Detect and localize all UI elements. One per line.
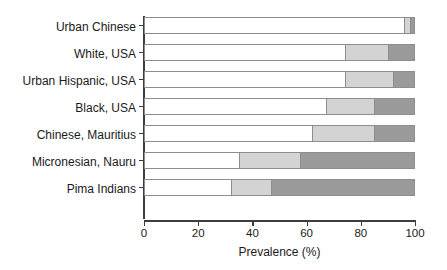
bar-segment: [410, 17, 415, 34]
bar-track: [144, 71, 415, 88]
y-axis-label-0: Urban Chinese: [0, 20, 136, 34]
x-tick-label: 20: [178, 227, 218, 240]
x-tick-label: 80: [341, 227, 381, 240]
bar-segment: [144, 179, 231, 196]
bar-row: [144, 98, 415, 115]
bar-segment: [144, 152, 239, 169]
x-axis-title: Prevalence (%): [144, 245, 415, 259]
bar-row: [144, 125, 415, 142]
bar-segment: [144, 17, 404, 34]
x-tick-label: 60: [287, 227, 327, 240]
bar-track: [144, 44, 415, 61]
bar-row: [144, 179, 415, 196]
x-tick: [198, 221, 199, 226]
bar-segment: [144, 44, 345, 61]
bar-track: [144, 179, 415, 196]
bar-track: [144, 125, 415, 142]
x-tick-label: 40: [232, 227, 272, 240]
bar-segment: [144, 71, 345, 88]
x-tick: [252, 221, 253, 226]
y-axis-label-3: Black, USA: [0, 101, 136, 115]
bar-track: [144, 152, 415, 169]
x-tick-label: 0: [124, 227, 164, 240]
bar-row: [144, 44, 415, 61]
bar-segment: [300, 152, 415, 169]
y-axis-label-5: Micronesian, Nauru: [0, 155, 136, 169]
bar-track: [144, 98, 415, 115]
bar-segment: [374, 98, 415, 115]
bar-segment: [312, 125, 374, 142]
bar-segment: [345, 44, 388, 61]
bar-segment: [144, 125, 312, 142]
stacked-bar-chart: Urban Chinese White, USA Urban Hispanic,…: [0, 0, 447, 270]
bar-segment: [231, 179, 272, 196]
x-tick-label: 100: [395, 227, 435, 240]
bar-row: [144, 17, 415, 34]
bar-segment: [345, 71, 394, 88]
bar-segment: [393, 71, 415, 88]
bar-row: [144, 71, 415, 88]
x-tick: [307, 221, 308, 226]
bar-segment: [374, 125, 415, 142]
x-tick: [415, 221, 416, 226]
x-tick: [144, 221, 145, 226]
bar-segment: [388, 44, 415, 61]
y-axis-label-1: White, USA: [0, 47, 136, 61]
y-axis-label-6: Pima Indians: [0, 182, 136, 196]
bar-segment: [239, 152, 300, 169]
bar-segment: [144, 98, 326, 115]
y-axis-label-2: Urban Hispanic, USA: [0, 74, 136, 88]
bar-segment: [271, 179, 415, 196]
bar-track: [144, 17, 415, 34]
x-axis-line: [144, 220, 416, 222]
x-tick: [361, 221, 362, 226]
y-axis-label-4: Chinese, Mauritius: [0, 128, 136, 142]
bar-row: [144, 152, 415, 169]
bar-segment: [326, 98, 375, 115]
